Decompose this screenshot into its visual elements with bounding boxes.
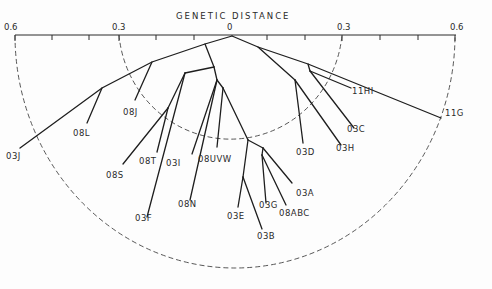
outer-arc-0.6 <box>15 35 455 268</box>
inner-arc-0.3 <box>119 35 342 139</box>
tick-zero: 0 <box>227 22 232 32</box>
leaf-label-08ABC: 08ABC <box>279 208 310 218</box>
leaf-label-03A: 03A <box>296 188 314 198</box>
phylogenetic-tree <box>0 0 492 289</box>
axis-title: GENETIC DISTANCE <box>176 11 290 21</box>
leaf-label-03I: 03I <box>166 158 181 168</box>
leaf-label-03C: 03C <box>347 124 365 134</box>
leaf-label-08J: 08J <box>123 107 138 117</box>
leaf-label-03D: 03D <box>296 147 315 157</box>
leaf-label-08L: 08L <box>73 128 90 138</box>
distance-arcs <box>15 35 455 268</box>
tick-right-0.6: 0.6 <box>450 22 464 32</box>
leaf-label-03B: 03B <box>257 231 275 241</box>
leaf-label-08UVW: 08UVW <box>198 154 232 164</box>
leaf-label-03J: 03J <box>6 151 21 161</box>
tick-right-0.3: 0.3 <box>337 22 351 32</box>
leaf-label-03E: 03E <box>227 211 245 221</box>
leaf-label-08S: 08S <box>106 170 124 180</box>
tick-left-0.6: 0.6 <box>4 22 18 32</box>
leaf-label-11G: 11G <box>445 108 464 118</box>
leaf-label-03F: 03F <box>135 213 152 223</box>
leaf-label-11HI: 11HI <box>352 86 374 96</box>
leaf-label-03G: 03G <box>259 200 278 210</box>
leaf-label-08T: 08T <box>139 156 157 166</box>
tick-left-0.3: 0.3 <box>112 22 126 32</box>
leaf-label-03H: 03H <box>336 143 355 153</box>
leaf-label-08N: 08N <box>178 199 197 209</box>
